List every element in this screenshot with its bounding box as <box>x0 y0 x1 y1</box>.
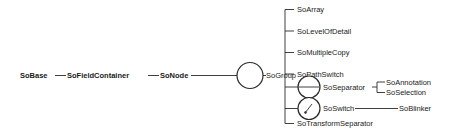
node-solevelofdetail: SoLevelOfDetail <box>297 27 352 36</box>
node-sotransformseparator: SoTransformSeparator <box>297 119 374 128</box>
node-soswitch: SoSwitch <box>323 104 354 113</box>
node-soannotation: SoAnnotation <box>386 78 431 87</box>
node-soarray: SoArray <box>297 5 324 14</box>
class-hierarchy-diagram: SoBase SoFieldContainer SoNode SoGroup S… <box>0 0 464 132</box>
node-soseparator: SoSeparator <box>323 83 366 92</box>
node-soselection: SoSelection <box>386 88 426 97</box>
node-somultiplecopy: SoMultipleCopy <box>297 48 350 57</box>
switch-dot-icon <box>304 111 306 113</box>
node-sonode: SoNode <box>160 71 188 80</box>
node-sogroup: SoGroup <box>266 71 296 80</box>
group-circle-icon <box>237 63 263 89</box>
node-sofieldcontainer: SoFieldContainer <box>67 71 129 80</box>
node-sobase: SoBase <box>20 71 48 80</box>
node-soblinker: SoBlinker <box>399 104 432 113</box>
